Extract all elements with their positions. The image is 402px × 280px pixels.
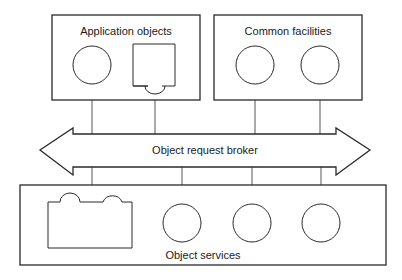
application-objects-label: Application objects xyxy=(80,25,172,37)
object-request-broker-label: Object request broker xyxy=(152,144,258,156)
oma-diagram: Application objects Common facilities Ob… xyxy=(0,0,402,280)
object-services-label: Object services xyxy=(165,249,241,261)
common-facilities-group: Common facilities xyxy=(214,15,362,100)
object-request-broker: Object request broker xyxy=(40,128,370,175)
object-services-group: Object services xyxy=(20,185,386,265)
application-objects-group: Application objects xyxy=(52,15,200,100)
common-facilities-label: Common facilities xyxy=(245,25,332,37)
